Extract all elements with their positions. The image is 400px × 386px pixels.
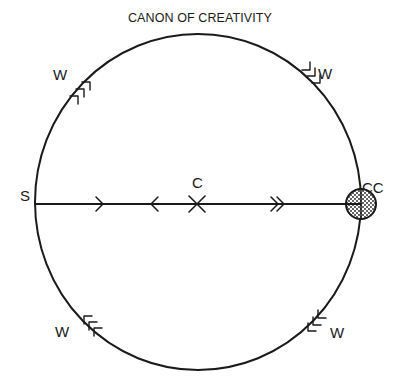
- wall-barb-bottom-right-icon: [308, 310, 326, 331]
- label-w-top-right: W: [318, 65, 333, 82]
- label-w-top-left: W: [53, 66, 68, 83]
- cc-endpoint-icon: [346, 189, 376, 219]
- canon-of-creativity-diagram: CANON OF CREATIVITY S C CC W W: [0, 0, 400, 386]
- label-s: S: [20, 187, 30, 204]
- label-w-bottom-right: W: [330, 324, 345, 341]
- label-c: C: [192, 174, 203, 191]
- diagram-title: CANON OF CREATIVITY: [128, 11, 273, 25]
- label-w-bottom-left: W: [55, 323, 70, 340]
